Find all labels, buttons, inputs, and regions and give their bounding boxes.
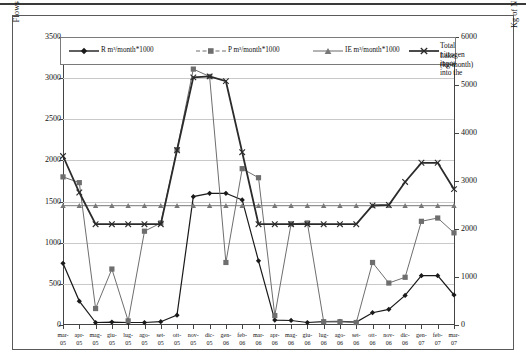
x-axis-tick-mark bbox=[340, 325, 341, 329]
data-point-P bbox=[256, 175, 261, 180]
x-axis-tick-mark bbox=[373, 325, 374, 329]
y-axis-right-tick-mark bbox=[454, 85, 459, 86]
y-axis-left-tick-label: 3500 bbox=[15, 32, 61, 41]
x-axis-tick-mark bbox=[210, 325, 211, 329]
data-point-P bbox=[321, 319, 326, 324]
x-axis-tick-mark bbox=[259, 325, 260, 329]
data-point-P bbox=[60, 174, 65, 179]
data-point-R bbox=[207, 191, 212, 196]
x-axis-tick-mark bbox=[438, 325, 439, 329]
data-point-P bbox=[337, 319, 342, 324]
y-axis-left-tick-label: 500 bbox=[15, 279, 61, 288]
x-axis-tick-mark bbox=[161, 325, 162, 329]
data-point-P bbox=[272, 313, 277, 318]
data-point-P bbox=[386, 280, 391, 285]
x-axis-tick-mark bbox=[96, 325, 97, 329]
y-axis-left-tick-label: 0 bbox=[15, 320, 61, 329]
data-point-R bbox=[272, 317, 277, 322]
data-point-N bbox=[402, 179, 408, 185]
y-axis-right-title: Kg of N carried into the Lake by surface… bbox=[510, 0, 524, 28]
series-IE bbox=[60, 203, 456, 208]
x-axis-tick-mark bbox=[193, 325, 194, 329]
legend-label-ie: IE m³/month*1000 bbox=[345, 46, 400, 54]
x-axis-tick-mark bbox=[291, 325, 292, 329]
data-point-P bbox=[435, 215, 440, 220]
chart-legend: R m³/month*1000 P m³/month*1000 IE m³/mo… bbox=[60, 37, 456, 65]
y-axis-right-tick-label: 0 bbox=[461, 320, 465, 329]
figure-page: Flows towards the Lake (m³*1000) Kg of N… bbox=[0, 0, 526, 364]
data-point-P bbox=[93, 306, 98, 311]
y-axis-right-tick-label: 1000 bbox=[461, 272, 477, 281]
x-axis-tick-mark bbox=[389, 325, 390, 329]
y-axis-left-tick-label: 1000 bbox=[15, 238, 61, 247]
x-axis-tick-mark bbox=[177, 325, 178, 329]
x-axis-tick-mark bbox=[145, 325, 146, 329]
data-point-R bbox=[305, 320, 310, 325]
data-point-R bbox=[109, 320, 114, 325]
y-axis-right-tick-label: 5000 bbox=[461, 80, 477, 89]
plot-region: 0500100015002000250030003500 01000200030… bbox=[63, 37, 454, 325]
y-axis-right-tick-mark bbox=[454, 133, 459, 134]
legend-label-p: P m³/month*1000 bbox=[228, 46, 280, 54]
data-point-R bbox=[60, 261, 65, 266]
legend-symbol-total-n bbox=[409, 47, 439, 55]
y-axis-left-tick-label: 3000 bbox=[15, 73, 61, 82]
x-axis-tick-mark bbox=[307, 325, 308, 329]
y-axis-right-tick-label: 6000 bbox=[461, 32, 477, 41]
x-axis-tick-mark bbox=[454, 325, 455, 329]
data-point-P bbox=[77, 180, 82, 185]
data-point-P bbox=[223, 260, 228, 265]
y-axis-right-tick-mark bbox=[454, 229, 459, 230]
x-axis-tick-mark bbox=[226, 325, 227, 329]
y-axis-right-tick-mark bbox=[454, 277, 459, 278]
data-point-P bbox=[419, 219, 424, 224]
series-line-R bbox=[63, 193, 454, 322]
data-point-P bbox=[403, 275, 408, 280]
data-point-R bbox=[191, 194, 196, 199]
x-axis-tick-mark bbox=[112, 325, 113, 329]
data-point-P bbox=[142, 229, 147, 234]
data-point-P bbox=[191, 66, 196, 71]
y-axis-left-title: Flows towards the Lake (m³*1000) bbox=[11, 0, 25, 56]
x-axis-tick-label: mar-07 bbox=[441, 332, 467, 347]
x-axis-tick-mark bbox=[275, 325, 276, 329]
data-point-P bbox=[240, 166, 245, 171]
data-point-P bbox=[126, 318, 131, 323]
data-point-R bbox=[256, 258, 261, 263]
data-point-R bbox=[223, 191, 228, 196]
y-axis-right-tick-label: 4000 bbox=[461, 128, 477, 137]
data-point-R bbox=[142, 320, 147, 325]
legend-symbol-r bbox=[69, 47, 99, 55]
x-axis-tick-mark bbox=[128, 325, 129, 329]
y-axis-right-tick-mark bbox=[454, 181, 459, 182]
page-top-rule bbox=[0, 3, 526, 5]
y-axis-right-tick-label: 2000 bbox=[461, 224, 477, 233]
x-axis-tick-mark bbox=[63, 325, 64, 329]
y-axis-left-tick-label: 2000 bbox=[15, 155, 61, 164]
legend-symbol-ie bbox=[313, 47, 343, 55]
series-R bbox=[60, 191, 456, 325]
legend-label-total-n-line2: Lake (kg/month) bbox=[440, 51, 473, 69]
x-axis-tick-mark bbox=[79, 325, 80, 329]
data-point-P bbox=[109, 266, 114, 271]
data-point-R bbox=[370, 310, 375, 315]
data-point-P bbox=[451, 230, 456, 235]
data-point-P bbox=[354, 320, 359, 325]
data-point-R bbox=[240, 197, 245, 202]
legend-label-r: R m³/month*1000 bbox=[101, 46, 154, 54]
x-axis-tick-mark bbox=[421, 325, 422, 329]
chart-frame: Flows towards the Lake (m³*1000) Kg of N… bbox=[12, 15, 514, 350]
data-point-P bbox=[370, 260, 375, 265]
x-axis-tick-mark bbox=[324, 325, 325, 329]
y-axis-left-tick-label: 1500 bbox=[15, 197, 61, 206]
series-line-N bbox=[63, 76, 454, 224]
data-point-R bbox=[288, 318, 293, 323]
series-P bbox=[60, 66, 456, 325]
chart-area: Flows towards the Lake (m³*1000) Kg of N… bbox=[13, 16, 513, 349]
y-axis-left-tick-label: 2500 bbox=[15, 114, 61, 123]
data-point-R bbox=[158, 319, 163, 324]
x-axis-tick-mark bbox=[405, 325, 406, 329]
series-layer bbox=[63, 37, 454, 325]
x-axis-tick-mark bbox=[356, 325, 357, 329]
data-point-R bbox=[174, 313, 179, 318]
